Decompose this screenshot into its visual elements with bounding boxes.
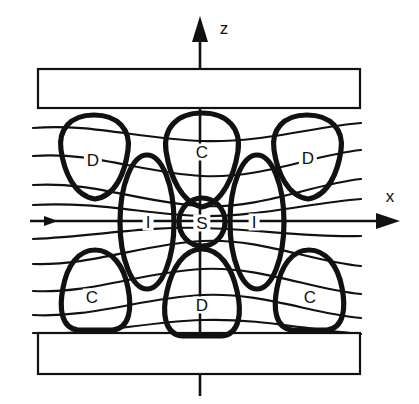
region-label-d-upper-left: D bbox=[84, 152, 102, 169]
upper-plate bbox=[38, 69, 360, 108]
region-label-c-lower-right: C bbox=[301, 289, 319, 306]
diagram-canvas bbox=[0, 0, 419, 404]
region-label-s-center: S bbox=[193, 215, 210, 232]
region-label-d-lower-mid: D bbox=[193, 297, 211, 314]
region-outline-d-lower-mid bbox=[165, 249, 240, 336]
region-label-i-left: I bbox=[143, 214, 154, 231]
lower-plate bbox=[38, 333, 360, 374]
z-axis-arrowhead bbox=[192, 16, 208, 42]
x-axis-inflow-arrowhead bbox=[44, 216, 58, 226]
region-label-c-lower-left: C bbox=[83, 289, 101, 306]
figure-container: D C D I S I C D C z x bbox=[0, 0, 419, 404]
z-axis-label: z bbox=[220, 20, 229, 37]
region-label-i-right: I bbox=[249, 214, 260, 231]
region-label-d-upper-right: D bbox=[299, 150, 317, 167]
field-line-1 bbox=[33, 123, 361, 141]
region-label-c-upper-mid: C bbox=[193, 144, 211, 161]
x-axis-label: x bbox=[386, 188, 395, 205]
x-axis-arrowhead bbox=[376, 213, 400, 229]
